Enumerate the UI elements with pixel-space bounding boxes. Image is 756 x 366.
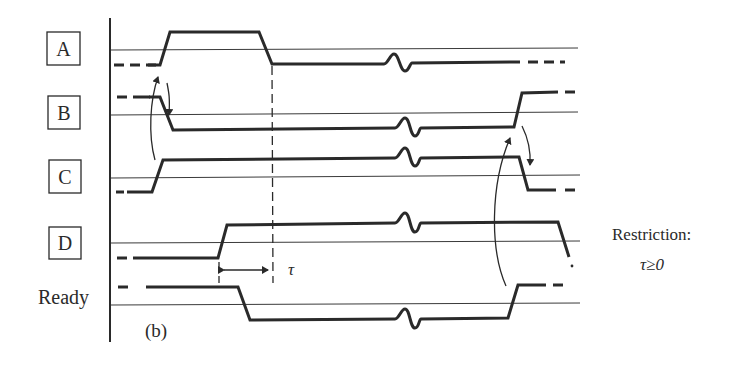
- signal-label-a: A: [47, 32, 80, 65]
- signal-name: D: [58, 232, 72, 254]
- restriction-condition: τ≥0: [640, 255, 664, 274]
- waveform-a: [114, 32, 565, 71]
- signal-label-d: D: [49, 227, 81, 259]
- threshold-line-b: [111, 112, 578, 115]
- panel-label: (b): [145, 320, 167, 342]
- signal-name: B: [57, 102, 70, 124]
- arrow-c-to-a: [151, 77, 158, 160]
- signal-name: C: [58, 166, 71, 188]
- waveform-d: [117, 213, 573, 267]
- tau-dimension: τ: [224, 260, 295, 279]
- signal-name: A: [56, 38, 71, 60]
- timing-diagram: A B C D Ready: [0, 0, 756, 366]
- threshold-line-ready: [111, 303, 580, 305]
- arrow-ready-to-b: [494, 138, 510, 286]
- restriction-label: Restriction:: [612, 225, 691, 244]
- dashed-marker-a-fall: [272, 66, 273, 283]
- waveform-ready: [118, 285, 563, 328]
- arrow-a-to-b: [167, 83, 169, 115]
- signal-label-b: B: [48, 96, 80, 129]
- waveform-b: [117, 92, 575, 136]
- tau-label: τ: [288, 260, 295, 279]
- threshold-line-c: [111, 175, 580, 178]
- threshold-line-d: [111, 241, 580, 243]
- waveform-c: [116, 148, 578, 192]
- threshold-line-a: [111, 48, 578, 50]
- arrow-b-to-c: [522, 126, 530, 165]
- signal-label-c: C: [49, 160, 81, 193]
- signal-label-ready: Ready: [38, 286, 89, 309]
